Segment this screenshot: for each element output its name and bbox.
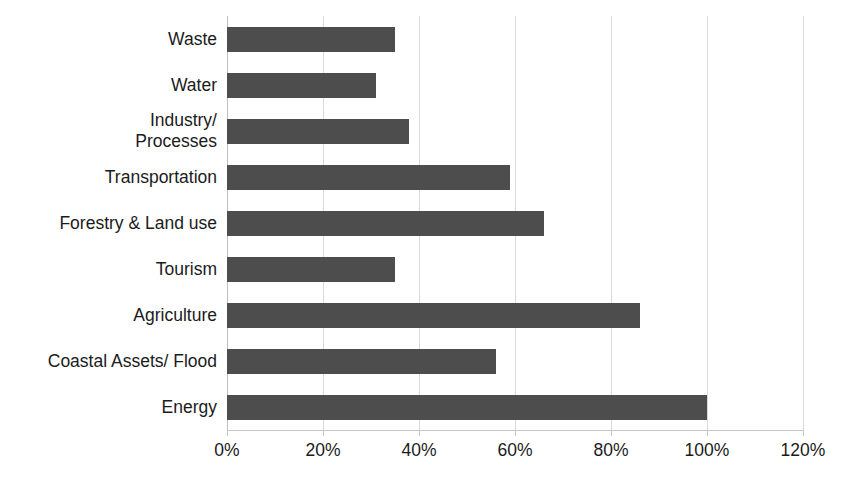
tick-mark-40pct: [419, 430, 420, 436]
bar-row: [227, 119, 803, 144]
bar-row: [227, 349, 803, 374]
y-axis-category-label: Transportation: [12, 167, 227, 188]
bar[interactable]: [227, 165, 510, 190]
y-axis-category-label: Forestry & Land use: [12, 213, 227, 234]
bar[interactable]: [227, 349, 496, 374]
tick-mark-100pct: [707, 430, 708, 436]
bar-row: [227, 73, 803, 98]
tick-mark-20pct: [323, 430, 324, 436]
x-tick-label: 40%: [401, 438, 436, 462]
tick-mark-0pct: [227, 430, 228, 436]
y-axis-category-label: Agriculture: [12, 305, 227, 326]
y-axis-category-labels: WasteWaterIndustry/ ProcessesTransportat…: [0, 16, 227, 430]
plot-area: [227, 16, 803, 430]
y-axis-category-label: Industry/ Processes: [12, 110, 227, 152]
x-tick-label: 20%: [305, 438, 340, 462]
x-tick-label: 120%: [781, 438, 826, 462]
bar-row: [227, 165, 803, 190]
y-axis-category-label: Coastal Assets/ Flood: [12, 351, 227, 372]
bar[interactable]: [227, 73, 376, 98]
x-tick-label: 0%: [214, 438, 239, 462]
bar-row: [227, 211, 803, 236]
bar-row: [227, 257, 803, 282]
bar-chart: WasteWaterIndustry/ ProcessesTransportat…: [0, 0, 855, 486]
x-axis-tick-labels: 0%20%40%60%80%100%120%: [0, 438, 855, 468]
bar[interactable]: [227, 27, 395, 52]
bar[interactable]: [227, 211, 544, 236]
bar[interactable]: [227, 303, 640, 328]
gridline-120pct: [803, 16, 804, 430]
x-tick-label: 60%: [497, 438, 532, 462]
bar[interactable]: [227, 257, 395, 282]
bar-row: [227, 27, 803, 52]
y-axis-category-label: Energy: [12, 397, 227, 418]
y-axis-category-label: Water: [12, 75, 227, 96]
bar-row: [227, 395, 803, 420]
tick-mark-80pct: [611, 430, 612, 436]
bar[interactable]: [227, 119, 409, 144]
tick-mark-60pct: [515, 430, 516, 436]
tick-mark-120pct: [803, 430, 804, 436]
y-axis-category-label: Waste: [12, 29, 227, 50]
x-tick-label: 80%: [593, 438, 628, 462]
bar[interactable]: [227, 395, 707, 420]
y-axis-category-label: Tourism: [12, 259, 227, 280]
x-tick-label: 100%: [685, 438, 730, 462]
bar-row: [227, 303, 803, 328]
